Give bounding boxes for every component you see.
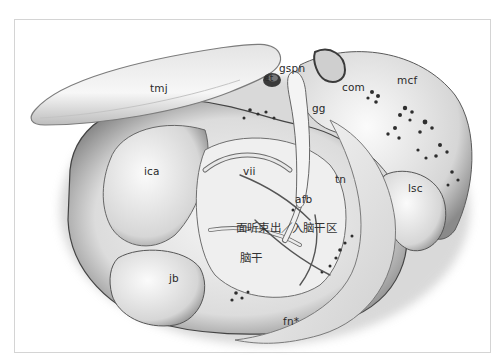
- label-root-entry-zone: 面听束出／入脑干区: [236, 223, 337, 235]
- anatomy-illustration: [0, 0, 498, 363]
- label-fn: fn*: [283, 316, 299, 327]
- label-afb: afb: [295, 194, 312, 205]
- label-gg: gg: [312, 103, 326, 114]
- label-gspn: gspn: [279, 63, 305, 74]
- label-tmj: tmj: [150, 83, 168, 94]
- label-vii: vii: [243, 166, 256, 177]
- jb-structure: [110, 250, 205, 326]
- label-jb: jb: [169, 273, 179, 284]
- label-et: et: [264, 74, 273, 83]
- label-brainstem: 脑干: [240, 253, 262, 265]
- label-lsc: lsc: [408, 183, 423, 194]
- label-tn: tn: [335, 174, 346, 185]
- label-mcf: mcf: [397, 75, 417, 86]
- label-ica: ica: [144, 166, 160, 177]
- label-com: com: [342, 82, 365, 93]
